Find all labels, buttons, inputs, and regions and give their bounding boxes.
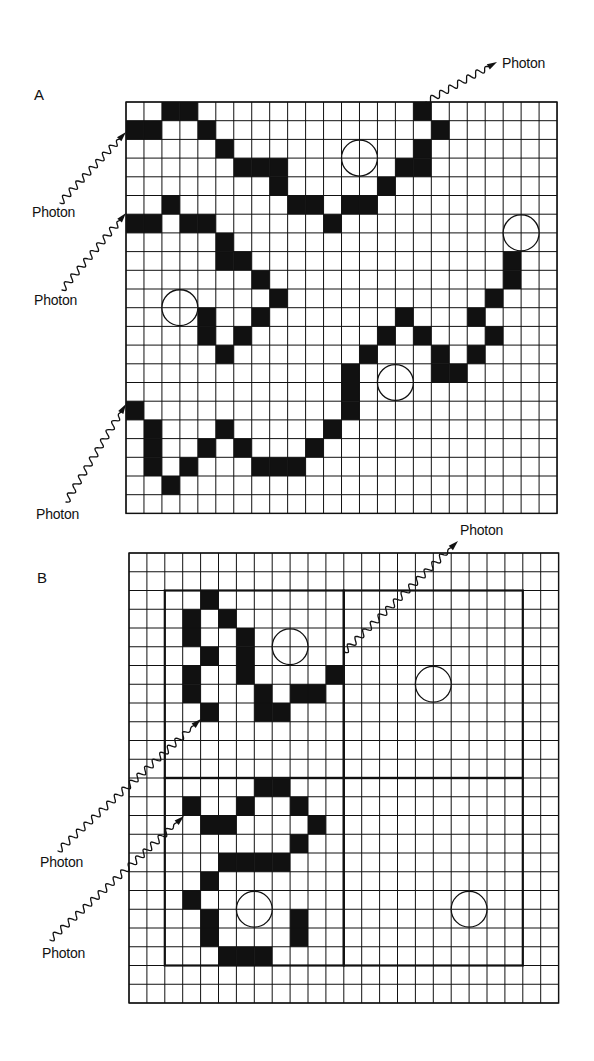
hit-cell (144, 439, 162, 458)
hit-cell (288, 457, 306, 476)
photon-label: Photon (42, 945, 85, 961)
photon-wavy-arrow-icon (62, 213, 126, 291)
hit-cell (234, 439, 252, 458)
hit-cell (201, 872, 219, 891)
hit-cell (183, 628, 201, 647)
hit-cell (183, 891, 201, 910)
hit-cell (503, 270, 521, 289)
panel-label-a: A (34, 86, 44, 103)
hit-cell (254, 684, 272, 703)
hit-cell (324, 214, 342, 233)
hit-cell (236, 853, 254, 872)
hit-cell (162, 196, 180, 215)
hit-cell (252, 270, 270, 289)
hit-cell (413, 102, 431, 121)
hit-cell (308, 816, 326, 835)
photon-wavy-arrow-icon (66, 404, 126, 502)
hit-cell (201, 647, 219, 666)
hit-cell (236, 947, 254, 966)
hit-cell (183, 797, 201, 816)
photon-label: Photon (34, 292, 77, 308)
hit-cell (216, 345, 234, 364)
hit-cell (270, 177, 288, 196)
hit-cell (308, 684, 326, 703)
hit-cell (180, 214, 198, 233)
hit-cell (431, 345, 449, 364)
photon-label: Photon (460, 522, 503, 538)
hit-cell (342, 364, 360, 383)
hit-cell (413, 139, 431, 158)
hit-cell (272, 703, 290, 722)
hit-cell (290, 928, 308, 947)
hit-cell (183, 684, 201, 703)
hit-cell (254, 778, 272, 797)
hit-cell (254, 703, 272, 722)
photon-detector-grid-figure (0, 0, 594, 1061)
hit-cell (236, 797, 254, 816)
hit-cell (216, 139, 234, 158)
hit-cell (395, 308, 413, 327)
hit-cell (270, 289, 288, 308)
panel-a (126, 102, 557, 513)
photon-label: Photon (32, 204, 75, 220)
hit-cell (180, 457, 198, 476)
hit-cell (272, 778, 290, 797)
hit-cell (201, 591, 219, 610)
hit-cell (467, 308, 485, 327)
hit-cell (219, 947, 237, 966)
hit-cell (252, 457, 270, 476)
hit-cell (126, 401, 144, 420)
hit-cell (236, 628, 254, 647)
hit-cell (198, 439, 216, 458)
hit-cell (201, 816, 219, 835)
hit-cell (272, 853, 290, 872)
hit-cell (413, 158, 431, 177)
hit-cell (126, 121, 144, 140)
hit-cell (219, 816, 237, 835)
hit-cell (288, 196, 306, 215)
hit-cell (180, 102, 198, 121)
hit-cell (219, 609, 237, 628)
hit-cell (326, 666, 344, 685)
photon-label: Photon (502, 55, 545, 71)
hit-cell (290, 797, 308, 816)
photon-wavy-arrow-icon (426, 62, 497, 104)
photon-label: Photon (36, 506, 79, 522)
hit-cell (431, 364, 449, 383)
hit-cell (144, 420, 162, 439)
hit-cell (183, 609, 201, 628)
hit-cell (201, 703, 219, 722)
hit-cell (324, 420, 342, 439)
hit-cell (359, 345, 377, 364)
hit-cell (377, 326, 395, 345)
hit-cell (413, 326, 431, 345)
hit-cell (198, 308, 216, 327)
hit-cell (254, 853, 272, 872)
hit-cell (183, 666, 201, 685)
hit-cell (254, 947, 272, 966)
panel-b (129, 553, 559, 1003)
hit-cell (144, 457, 162, 476)
hit-cell (467, 345, 485, 364)
hit-cell (252, 308, 270, 327)
hit-cell (306, 439, 324, 458)
hit-cell (290, 834, 308, 853)
hit-cell (485, 326, 503, 345)
hit-cell (252, 158, 270, 177)
hit-cell (198, 121, 216, 140)
hit-cell (431, 121, 449, 140)
panel-label-b: B (37, 569, 47, 586)
hit-cell (290, 909, 308, 928)
hit-cell (342, 196, 360, 215)
hit-cell (126, 214, 144, 233)
hit-cell (198, 326, 216, 345)
hit-cell (201, 909, 219, 928)
hit-cell (395, 158, 413, 177)
hit-cell (306, 196, 324, 215)
hit-cell (162, 476, 180, 495)
hit-cell (236, 647, 254, 666)
hit-cell (201, 928, 219, 947)
hit-cell (216, 252, 234, 271)
hit-cell (377, 177, 395, 196)
hit-cell (342, 383, 360, 402)
